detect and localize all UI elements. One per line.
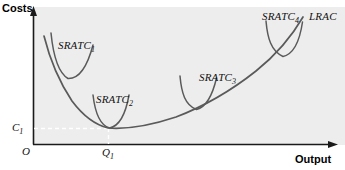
y-axis-title: Costs: [2, 2, 33, 14]
sratc3-subscript: 3: [232, 77, 236, 86]
c1-axis-label: C1: [12, 121, 23, 136]
cost-curve-figure: Costs Output O C1 Q1 SRATC1 SRATC2 SRATC…: [0, 0, 345, 170]
q1-base: Q: [102, 146, 110, 158]
sratc2-label: SRATC2: [96, 93, 133, 108]
sratc2-subscript: 2: [129, 99, 133, 108]
sratc1-subscript: 1: [91, 45, 95, 54]
sratc4-label: SRATC4: [262, 10, 299, 25]
q1-axis-label: Q1: [102, 146, 114, 161]
x-axis-title: Output: [295, 153, 331, 165]
sratc2-text: SRATC: [96, 93, 129, 105]
sratc3-label: SRATC3: [199, 71, 236, 86]
sratc4-text: SRATC: [262, 10, 295, 22]
q1-subscript: 1: [110, 152, 114, 161]
sratc4-subscript: 4: [295, 16, 299, 25]
c1-subscript: 1: [19, 127, 23, 136]
sratc1-text: SRATC: [58, 39, 91, 51]
lrac-label: LRAC: [309, 10, 337, 22]
sratc3-text: SRATC: [199, 71, 232, 83]
sratc1-label: SRATC1: [58, 39, 95, 54]
origin-label: O: [22, 145, 30, 157]
plot-background: [33, 7, 345, 145]
plot-canvas: [0, 0, 345, 170]
